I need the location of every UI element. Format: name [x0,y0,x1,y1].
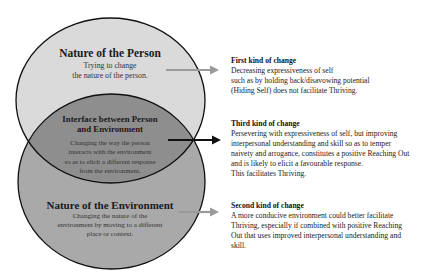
interface-desc-line: Changing the way the person [45,138,175,147]
third-change-heading: Third kind of change [231,119,409,129]
person-label: Nature of the Person Trying to change th… [40,47,180,81]
environment-desc-line: Changing the nature of the [35,212,185,221]
second-change-line: Out that uses improved interpersonal und… [231,231,402,241]
interface-desc-line: interacts with the environment [45,147,175,156]
environment-title: Nature of the Environment [35,199,185,212]
interface-desc-line: so as to elicit a different response [45,157,175,166]
environment-desc-line: environment by moving to a different [35,221,185,230]
second-change-line: A more conducive environment could bette… [231,211,402,221]
third-change-line: interpersonal understanding and skill so… [231,139,409,149]
environment-label: Nature of the Environment Changing the n… [35,199,185,239]
first-change-heading: First kind of change [231,56,370,66]
second-change-block: Second kind of change A more conducive e… [231,201,402,251]
person-desc-line: Trying to change [40,61,180,71]
third-change-line: Persevering with expressiveness of self,… [231,129,409,139]
environment-desc-line: place or context. [35,230,185,239]
second-change-line: Thriving, especially if combined with po… [231,221,402,231]
third-change-line: and is likely to elicit a favourable res… [231,159,409,169]
second-change-line: skill. [231,241,402,251]
third-change-line: naivety and arrogance, constitutes a pos… [231,149,409,159]
second-change-heading: Second kind of change [231,201,402,211]
first-change-line: Decreasing expressiveness of self [231,66,370,76]
first-change-line: such as by holding back/disavowing poten… [231,76,370,86]
interface-desc-line: from the environment. [45,166,175,175]
person-desc-line: the nature of the person. [40,71,180,81]
interface-title-line: and Environment [45,124,175,134]
person-title: Nature of the Person [40,47,180,60]
interface-label: Interface between Person and Environment… [45,114,175,175]
first-change-block: First kind of change Decreasing expressi… [231,56,370,96]
interface-title-line: Interface between Person [45,114,175,124]
third-change-line: This facilitates Thriving. [231,169,409,179]
third-change-block: Third kind of change Persevering with ex… [231,119,409,179]
first-change-line: (Hiding Self) does not facilitate Thrivi… [231,86,370,96]
